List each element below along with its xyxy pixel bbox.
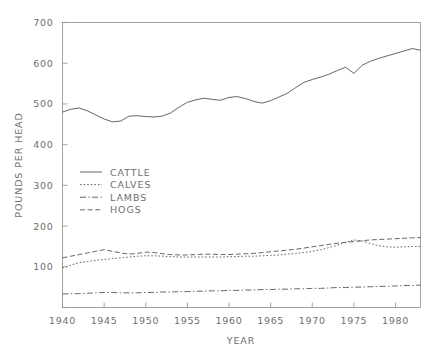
y-tick-label: 600 <box>33 58 53 69</box>
legend-label-lambs: LAMBS <box>110 192 147 203</box>
legend-label-hogs: HOGS <box>110 204 142 215</box>
y-tick-label: 200 <box>33 221 53 232</box>
y-tick-label: 500 <box>33 98 53 109</box>
x-tick-label: 1970 <box>299 315 326 326</box>
legend-label-calves: CALVES <box>110 179 151 190</box>
chart-container: 100200300400500600700 194019451950195519… <box>0 0 446 354</box>
y-tick-label: 400 <box>33 139 53 150</box>
y-tick-label: 300 <box>33 180 53 191</box>
y-tick-label: 100 <box>33 261 53 272</box>
x-tick-label: 1945 <box>91 315 118 326</box>
x-tick-label: 1960 <box>216 315 243 326</box>
legend-label-cattle: CATTLE <box>110 167 151 178</box>
chart-background <box>0 0 446 354</box>
x-tick-label: 1955 <box>174 315 201 326</box>
x-tick-label: 1980 <box>382 315 409 326</box>
x-tick-label: 1940 <box>49 315 76 326</box>
y-axis-title: POUNDS PER HEAD <box>13 112 24 217</box>
x-tick-label: 1965 <box>257 315 284 326</box>
y-tick-label: 700 <box>33 17 53 28</box>
x-axis-tick-labels: 194019451950195519601965197019751980 <box>49 315 409 326</box>
x-tick-label: 1950 <box>132 315 159 326</box>
line-chart: 100200300400500600700 194019451950195519… <box>0 0 446 354</box>
x-tick-label: 1975 <box>340 315 367 326</box>
x-axis-title: YEAR <box>226 335 256 346</box>
